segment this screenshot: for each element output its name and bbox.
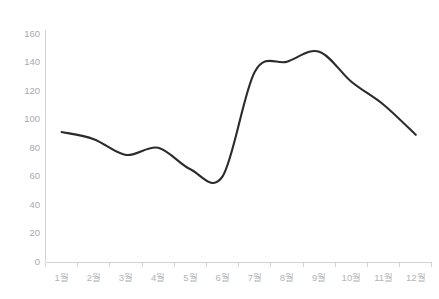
x-tick-label: 12월 — [406, 272, 426, 283]
x-tick-label: 11월 — [374, 272, 393, 283]
chart-plot-area: 160 140 120 100 80 60 40 20 0 — [0, 0, 439, 299]
x-tick-label: 3월 — [119, 272, 133, 283]
x-tick-label: 7월 — [248, 272, 262, 283]
y-tick-label: 120 — [24, 85, 40, 96]
y-tick-label: 100 — [24, 113, 40, 124]
x-tick-label: 10월 — [342, 272, 362, 283]
x-tick-label: 8월 — [280, 272, 294, 283]
y-tick-label: 80 — [29, 142, 40, 153]
x-axis-tick-marks — [46, 263, 432, 268]
line-chart: 160 140 120 100 80 60 40 20 0 — [0, 0, 439, 299]
y-tick-label: 20 — [29, 227, 40, 238]
y-axis-tick-labels: 160 140 120 100 80 60 40 20 0 — [24, 28, 40, 268]
y-tick-label: 60 — [29, 170, 40, 181]
y-tick-label: 160 — [24, 28, 40, 39]
data-series-line — [62, 51, 416, 183]
x-axis-tick-labels: 1월 2월 3월 4월 5월 6월 7월 8월 9월 10월 11월 12월 — [54, 272, 425, 283]
x-tick-label: 6월 — [215, 272, 229, 283]
y-tick-label: 40 — [29, 199, 40, 210]
y-tick-label: 0 — [35, 256, 40, 267]
x-tick-label: 9월 — [312, 272, 326, 283]
y-tick-label: 140 — [24, 56, 40, 67]
x-tick-label: 1월 — [54, 272, 68, 283]
x-tick-label: 4월 — [151, 272, 165, 283]
x-tick-label: 2월 — [87, 272, 101, 283]
x-tick-label: 5월 — [183, 272, 197, 283]
